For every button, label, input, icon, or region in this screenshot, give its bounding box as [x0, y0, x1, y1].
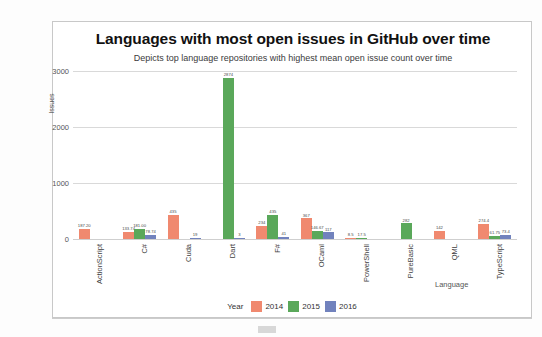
bar-slot: 142 [434, 71, 445, 239]
bar-value-label: 367 [303, 214, 310, 219]
bar-slot: 187.20 [79, 71, 90, 239]
bar-slot: 367 [301, 71, 312, 239]
x-axis-category: F# [251, 242, 295, 300]
x-axis-category-label: PureBasic [406, 244, 415, 278]
bar[interactable]: 2874 [223, 78, 234, 239]
x-axis-category: OCaml [295, 242, 339, 300]
bar-slot [390, 71, 401, 239]
bar[interactable]: 435 [168, 215, 179, 239]
chart-page: Languages with most open issues in GitHu… [0, 0, 542, 337]
bar-group: 187.20 [73, 71, 117, 239]
legend-item-2016[interactable]: 2016 [325, 301, 357, 312]
bar-value-label: 19 [193, 233, 198, 238]
bar[interactable]: 187.20 [79, 229, 90, 239]
chart-figure: Languages with most open issues in GitHu… [52, 21, 532, 318]
bar-group: 43519 [162, 71, 206, 239]
bar-slot [212, 71, 223, 239]
bar-value-label: 181.00 [133, 224, 146, 229]
y-axis-label: Issues [48, 93, 55, 113]
bar[interactable]: 78.74 [145, 235, 156, 239]
bottom-rule [52, 318, 532, 319]
bar-value-label: 17.5 [358, 233, 366, 238]
bar[interactable]: 274.4 [478, 224, 489, 239]
bar-slot: 73.4 [500, 71, 511, 239]
bar-slot [90, 71, 101, 239]
bar-value-label: 61.75 [490, 231, 500, 236]
bar-slot [445, 71, 456, 239]
bar-value-label: 234 [258, 221, 265, 226]
bar-slot: 19 [190, 71, 201, 239]
bar-slot: 181.00 [134, 71, 145, 239]
bar-slot: 61.75 [489, 71, 500, 239]
bar-value-label: 41 [281, 232, 286, 237]
bar-slot [412, 71, 423, 239]
bar-value-label: 78.74 [145, 230, 155, 235]
x-axis-categories: ActionScriptC#CudaDartF#OCamlPowerShellP… [73, 242, 517, 300]
legend-label: 2014 [265, 302, 283, 311]
x-axis-category-label: Cuda [184, 244, 193, 262]
bar[interactable]: 133.74 [123, 232, 134, 239]
bar-slot: 435 [267, 71, 278, 239]
legend-swatch [325, 301, 336, 312]
legend-label: 2015 [302, 302, 320, 311]
y-axis-tick-label: 1000 [52, 179, 69, 188]
bar-slot: 282 [401, 71, 412, 239]
bar-value-label: 8.5 [348, 233, 354, 238]
legend-title: Year [227, 302, 243, 311]
bar[interactable]: 435 [267, 215, 278, 239]
bar-group: 142 [428, 71, 472, 239]
y-axis-tick-label: 0 [65, 235, 69, 244]
bar[interactable]: 3 [234, 238, 245, 239]
bar-slot: 3 [234, 71, 245, 239]
bar[interactable]: 41 [278, 237, 289, 239]
bar[interactable]: 19 [190, 238, 201, 239]
bar-value-label: 142 [436, 226, 443, 231]
bar-group: 133.74181.0078.74 [117, 71, 161, 239]
bar-value-label: 187.20 [78, 224, 91, 229]
bar-value-label: 73.4 [502, 230, 510, 235]
legend-swatch [288, 301, 299, 312]
bar[interactable]: 282 [401, 223, 412, 239]
bar-value-label: 274.4 [479, 219, 489, 224]
bar-group: 23443541 [251, 71, 295, 239]
bar-slot [456, 71, 467, 239]
legend-label: 2016 [339, 302, 357, 311]
bar[interactable]: 234 [256, 226, 267, 239]
y-axis-tick-label: 2000 [52, 123, 69, 132]
bar[interactable]: 17.5 [356, 238, 367, 239]
legend-item-2015[interactable]: 2015 [288, 301, 320, 312]
bar-slot: 133.74 [123, 71, 134, 239]
bar-value-label: 117 [325, 228, 332, 233]
x-axis-category-label: F# [273, 244, 282, 253]
x-axis-category-label: QML [450, 244, 459, 260]
bar[interactable]: 61.75 [489, 236, 500, 239]
x-axis-category: ActionScript [73, 242, 117, 300]
bar-group: 282 [384, 71, 428, 239]
x-axis-category: C# [117, 242, 161, 300]
bar-group: 367146.67117 [295, 71, 339, 239]
bar-slot [179, 71, 190, 239]
chart-title: Languages with most open issues in GitHu… [57, 30, 529, 48]
bar[interactable]: 146.67 [312, 231, 323, 239]
x-axis-category: PureBasic [384, 242, 428, 300]
bar-slot: 78.74 [145, 71, 156, 239]
bar-value-label: 435 [269, 210, 276, 215]
x-axis-category-label: TypeScript [495, 244, 504, 279]
legend-item-2014[interactable]: 2014 [251, 301, 283, 312]
bar-slot: 8.5 [345, 71, 356, 239]
bar[interactable]: 73.4 [500, 235, 511, 239]
footer-mark [258, 326, 276, 333]
x-axis-baseline [73, 239, 517, 240]
bar-slot: 2874 [223, 71, 234, 239]
x-axis-category-label: Dart [228, 244, 237, 258]
bar[interactable]: 181.00 [134, 229, 145, 239]
bar-group: 274.461.7573.4 [473, 71, 517, 239]
bar[interactable]: 8.5 [345, 238, 356, 239]
bar[interactable]: 142 [434, 231, 445, 239]
bar-slot: 435 [168, 71, 179, 239]
bar[interactable]: 117 [323, 232, 334, 239]
chart-legend: Year 201420152016 [53, 301, 531, 312]
legend-swatch [251, 301, 262, 312]
x-axis-category-label: ActionScript [95, 244, 104, 284]
bar-groups: 187.20133.74181.0078.7443519287432344354… [73, 71, 517, 239]
